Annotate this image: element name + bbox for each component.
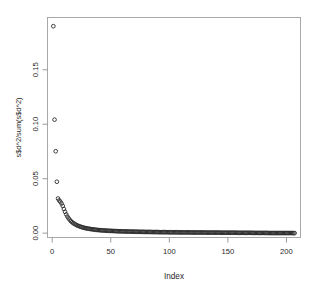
x-axis-title: Index	[164, 272, 184, 281]
data-point	[54, 149, 58, 153]
x-axis-tick-label: 200	[280, 247, 293, 256]
y-axis-tick-label: 0.05	[32, 171, 41, 186]
data-point-group	[52, 24, 297, 235]
x-axis-tick-label: 100	[163, 247, 176, 256]
y-axis-tick-label: 0.15	[32, 62, 41, 77]
scatter-plot-svg: 0501001502000.000.050.100.15Indexs$d^2/s…	[0, 0, 317, 296]
y-axis-title: s$d^2/sum(s$d^2)	[14, 98, 23, 158]
data-point	[52, 24, 56, 28]
plot-box-frame	[48, 18, 301, 238]
data-point	[53, 118, 57, 122]
x-axis-tick-label: 0	[50, 247, 54, 256]
scree-plot-screenshot: 0501001502000.000.050.100.15Indexs$d^2/s…	[0, 0, 317, 296]
x-axis-tick-label: 150	[222, 247, 235, 256]
y-axis-tick-label: 0.00	[32, 226, 41, 241]
data-point	[55, 180, 59, 184]
x-axis-tick-label: 50	[107, 247, 115, 256]
y-axis-tick-label: 0.10	[32, 117, 41, 132]
plot-area: 0501001502000.000.050.100.15Indexs$d^2/s…	[0, 0, 317, 296]
